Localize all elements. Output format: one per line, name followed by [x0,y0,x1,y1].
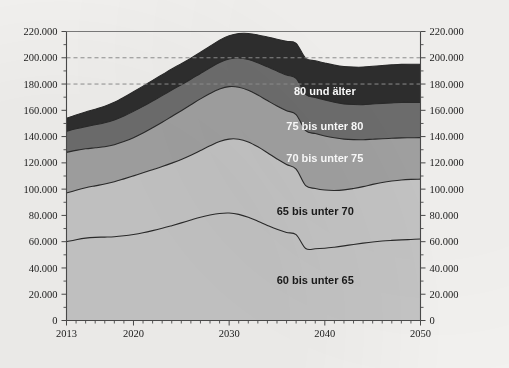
left-tick-label-200000: 200.000 [23,52,57,63]
left-axis-ticks [62,32,67,321]
stacked-area-chart: 020.00040.00060.00080.000100.000120.0001… [0,0,509,368]
right-tick-label-200000: 200.000 [430,52,464,63]
left-tick-label-20000: 20.000 [29,289,58,300]
x-tick-label-2013: 2013 [56,328,77,339]
right-tick-label-120000: 120.000 [430,157,464,168]
series-label-60-bis-unter-65: 60 bis unter 65 [277,274,354,286]
left-tick-label-220000: 220.000 [23,26,57,37]
left-tick-label-100000: 100.000 [23,184,57,195]
left-tick-label-80000: 80.000 [29,210,58,221]
right-tick-label-60000: 60.000 [430,236,459,247]
right-tick-label-0: 0 [430,315,435,326]
right-axis-ticks [421,32,426,321]
right-axis-tick-labels: 020.00040.00060.00080.000100.000120.0001… [430,26,464,326]
series-label-80-und-älter: 80 und älter [294,85,356,97]
left-tick-label-160000: 160.000 [23,105,57,116]
series-label-75-bis-unter-80: 75 bis unter 80 [286,120,363,132]
bottom-axis-ticks [67,321,421,326]
series-label-65-bis-unter-70: 65 bis unter 70 [277,205,354,217]
left-tick-label-120000: 120.000 [23,157,57,168]
left-tick-label-0: 0 [52,315,57,326]
x-tick-label-2050: 2050 [410,328,431,339]
chart-page: 020.00040.00060.00080.000100.000120.0001… [0,0,509,368]
right-tick-label-80000: 80.000 [430,210,459,221]
left-axis-tick-labels: 020.00040.00060.00080.000100.000120.0001… [23,26,57,326]
right-tick-label-140000: 140.000 [430,131,464,142]
right-tick-label-40000: 40.000 [430,263,459,274]
right-tick-label-100000: 100.000 [430,184,464,195]
x-tick-label-2030: 2030 [219,328,240,339]
bottom-axis-tick-labels: 20132020203020402050 [56,328,431,339]
x-tick-label-2020: 2020 [123,328,144,339]
left-tick-label-40000: 40.000 [29,263,58,274]
area-bands-group [67,33,421,320]
right-tick-label-220000: 220.000 [430,26,464,37]
left-tick-label-180000: 180.000 [23,79,57,90]
left-tick-label-140000: 140.000 [23,131,57,142]
x-tick-label-2040: 2040 [314,328,335,339]
right-tick-label-20000: 20.000 [430,289,459,300]
right-tick-label-160000: 160.000 [430,105,464,116]
series-label-70-bis-unter-75: 70 bis unter 75 [286,152,363,164]
left-tick-label-60000: 60.000 [29,236,58,247]
right-tick-label-180000: 180.000 [430,79,464,90]
